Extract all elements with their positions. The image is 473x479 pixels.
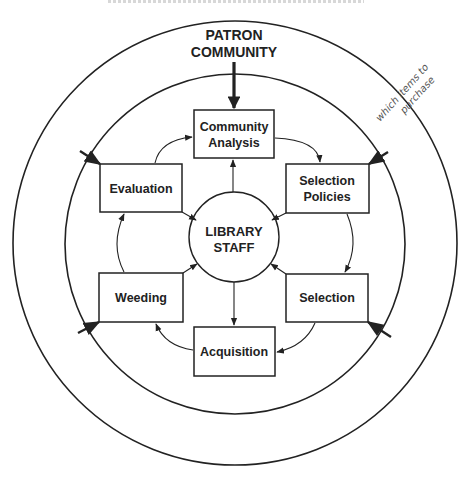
box-evaluation-line1: Evaluation: [109, 182, 172, 196]
box-selection-policies: Selection Policies: [286, 164, 369, 213]
arc-weeding-to-evaluation: [117, 214, 124, 272]
box-acquisition: Acquisition: [194, 327, 275, 376]
arc-acquisition-to-weeding: [156, 324, 193, 350]
spoke-from-weeding: [183, 264, 197, 273]
collection-development-diagram: PATRON COMMUNITY LIBRARY STAFF Community…: [0, 0, 473, 479]
patron-community-label-line1: PATRON: [205, 27, 262, 43]
arc-policies-to-selection: [345, 214, 353, 272]
box-evaluation: Evaluation: [100, 164, 182, 212]
box-community-analysis: Community Analysis: [194, 110, 274, 158]
box-selection-policies-line1: Selection: [299, 174, 355, 188]
box-selection: Selection: [286, 274, 368, 322]
library-staff-label-line1: LIBRARY: [205, 224, 263, 239]
library-staff-label-line2: STAFF: [214, 240, 255, 255]
spoke-from-selection: [271, 264, 286, 274]
handwritten-note: which items to purchase: [373, 61, 440, 132]
box-selection-policies-line2: Policies: [303, 190, 350, 204]
arc-analysis-to-policies: [275, 138, 320, 162]
box-selection-line1: Selection: [299, 291, 355, 305]
box-weeding: Weeding: [99, 273, 183, 322]
boundary-arrow-upper-left: [80, 151, 100, 164]
arc-selection-to-acquisition: [277, 323, 315, 352]
box-community-analysis-line2: Analysis: [208, 136, 259, 150]
box-community-analysis-line1: Community: [200, 120, 269, 134]
box-weeding-line1: Weeding: [115, 291, 167, 305]
arc-evaluation-to-analysis: [155, 137, 192, 163]
box-acquisition-line1: Acquisition: [200, 345, 268, 359]
patron-community-label-line2: COMMUNITY: [191, 44, 278, 60]
